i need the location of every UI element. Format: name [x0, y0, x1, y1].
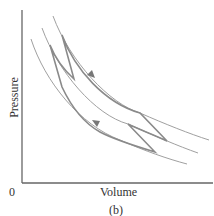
origin-label: 0: [9, 185, 15, 200]
outer-curve: [53, 16, 209, 140]
pv-diagram: [0, 0, 214, 216]
y-axis-label: Pressure: [7, 72, 22, 124]
upper-arrow-icon: [87, 70, 95, 78]
x-axis-label: Volume: [100, 185, 137, 200]
panel-label: (b): [109, 203, 123, 216]
